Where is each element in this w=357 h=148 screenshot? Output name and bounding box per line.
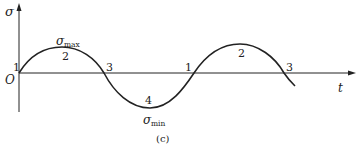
y-axis-label: σ	[5, 4, 15, 19]
point-label-1b: 1	[185, 61, 192, 74]
stress-time-diagram: σ O t 1 2 3 4 1 2 3 σ max σ min (c)	[0, 0, 357, 148]
point-label-4: 4	[145, 94, 152, 107]
point-label-3b: 3	[286, 61, 293, 74]
t-axis-arrow-icon	[348, 71, 356, 76]
sigma-max-label: σ max	[56, 34, 81, 49]
y-axis-arrow-icon	[17, 3, 22, 11]
svg-text:max: max	[64, 40, 81, 49]
svg-text:min: min	[151, 119, 166, 128]
stress-curve	[19, 44, 295, 108]
point-label-3a: 3	[106, 61, 113, 74]
origin-label: O	[5, 73, 15, 87]
figure-caption: (c)	[156, 133, 170, 144]
point-label-2a: 2	[62, 50, 69, 63]
point-label-1a: 1	[13, 61, 20, 74]
sigma-min-label: σ min	[143, 113, 166, 128]
x-axis-label: t	[338, 81, 343, 95]
point-label-2b: 2	[238, 47, 245, 60]
